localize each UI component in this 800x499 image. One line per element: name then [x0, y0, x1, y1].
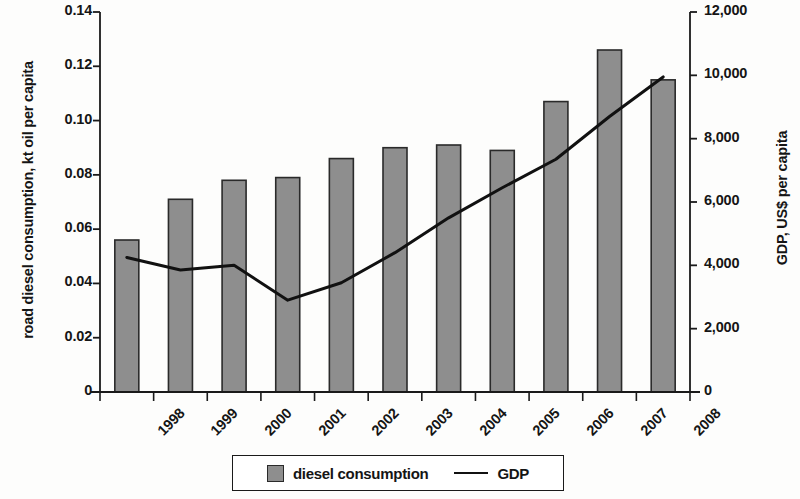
legend-label-diesel-consumption: diesel consumption — [293, 465, 428, 482]
x-tick-label-2003: 2003 — [422, 405, 456, 439]
x-tick-label-2007: 2007 — [637, 405, 671, 439]
x-tick-label-2001: 2001 — [315, 405, 349, 439]
x-tick-label-2002: 2002 — [369, 405, 403, 439]
x-tick-label-2004: 2004 — [476, 405, 510, 439]
x-tick-label-2005: 2005 — [529, 405, 563, 439]
x-tick-label-1998: 1998 — [154, 405, 188, 439]
x-tick-label-2000: 2000 — [261, 405, 295, 439]
chart-figure: road diesel consumption, kt oil per capi… — [0, 0, 800, 499]
legend-item-gdp: GDP — [454, 465, 529, 482]
legend-label-gdp: GDP — [497, 465, 529, 482]
x-axis-ticks: 1998199920002001200220032004200520062007… — [0, 0, 800, 499]
bar-swatch-icon — [267, 465, 284, 482]
chart-legend: diesel consumption GDP — [232, 455, 564, 491]
line-swatch-icon — [454, 472, 488, 474]
x-tick-label-2008: 2008 — [690, 405, 724, 439]
legend-item-diesel-consumption: diesel consumption — [267, 465, 428, 482]
x-tick-label-2006: 2006 — [583, 405, 617, 439]
x-tick-label-1999: 1999 — [208, 405, 242, 439]
